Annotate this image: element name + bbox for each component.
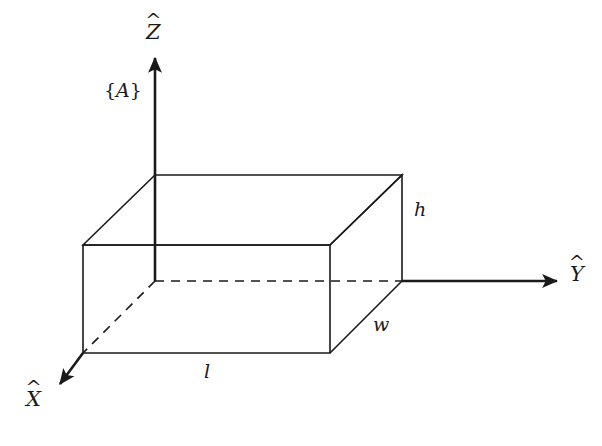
height-dimension-label: h bbox=[414, 200, 426, 219]
y-hat-accent: ^ bbox=[569, 253, 585, 272]
z-axis-label: ^ Z bbox=[146, 22, 161, 43]
hidden-edges-group bbox=[83, 175, 402, 353]
x-axis-label: ^ X bbox=[26, 389, 41, 410]
width-dimension-label: w bbox=[373, 315, 389, 334]
hidden-x-diagonal-edge bbox=[83, 281, 155, 353]
frame-label: {A} bbox=[104, 81, 142, 100]
z-hat-accent: ^ bbox=[145, 11, 161, 30]
box-visible-edges-group bbox=[83, 175, 402, 353]
frame-letter: A bbox=[116, 79, 130, 101]
frame-brace-open: { bbox=[104, 79, 116, 101]
top-face-edges bbox=[83, 175, 402, 245]
box-and-axes-drawing bbox=[0, 0, 602, 446]
frame-brace-close: } bbox=[130, 79, 142, 101]
x-axis-line bbox=[60, 353, 83, 384]
figure-canvas: ^ Z ^ Y ^ X {A} h w l bbox=[0, 0, 602, 446]
length-dimension-label: l bbox=[204, 362, 210, 381]
front-face-edges bbox=[83, 245, 330, 353]
y-axis-label: ^ Y bbox=[570, 264, 584, 285]
axes-group bbox=[60, 58, 557, 384]
x-hat-accent: ^ bbox=[25, 378, 41, 397]
right-face-edges bbox=[330, 175, 402, 353]
